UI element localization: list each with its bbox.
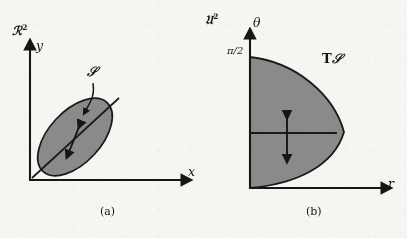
panel-a-caption: (a) [100,206,115,217]
panel-b-region-label-script: 𝒮 [332,51,342,66]
panel-b-theta-tick-label: π/2 [227,46,243,56]
diagram-canvas [0,0,407,238]
panel-b-space-label: 𝔘2 [205,13,219,27]
panel-b-axis-r-label: r [388,178,394,191]
panel-a-region-label: 𝒮 [87,65,97,78]
panel-a-axis-y-label: y [36,40,43,53]
panel-a-space-label: ℛ2 [12,24,28,38]
panel-a-group [24,48,183,189]
panel-b-axis-theta-label: θ [253,17,261,30]
region-ts-shape [250,57,344,188]
panel-b-caption: (b) [306,206,322,217]
figure-container: ℛ2 y x 𝒮 (a) 𝔘2 θ π/2 T𝒮 r (b) [0,0,407,238]
panel-b-group [249,37,383,189]
panel-b-region-label: T𝒮 [322,52,342,65]
panel-b-region-label-roman: T [322,51,332,66]
panel-a-axis-x-label: x [188,166,195,179]
